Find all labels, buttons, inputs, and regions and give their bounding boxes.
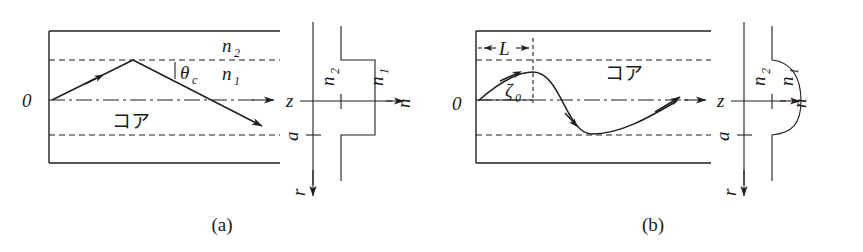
panel-a-profile-n1-subscript: 1	[377, 68, 391, 74]
panel-b-profile-n2-label: n 2	[748, 68, 773, 86]
panel-b-labels: 0 z コア L ζ 0 a n r n 2 n 1	[452, 38, 810, 196]
panel-a-profile-n2-subscript: 2	[328, 68, 342, 74]
panel-a-profile-n2-label: n 2	[317, 68, 342, 86]
panel-a-step-index-profile-curve	[341, 26, 375, 181]
panel-b-profile-n2-letter: n	[748, 77, 769, 87]
panel-a-cladding-index-subscript: 2	[234, 46, 240, 60]
panel-a-core-index-label: n 1	[222, 63, 240, 88]
figure-canvas: 0 z コア n 2 n 1 θ c a n r n 2 n 1	[0, 0, 863, 252]
panel-a-profile-n1-letter: n	[366, 77, 387, 87]
panel-b-axis-n-label: n	[789, 99, 810, 109]
panel-a-profile-n2-letter: n	[317, 77, 338, 87]
panel-a-axis-r-label: r	[288, 188, 309, 196]
panel-a-theta-subscript: c	[192, 73, 198, 87]
panel-a-critical-angle-label: θ c	[180, 62, 198, 87]
panel-a-theta-letter: θ	[180, 62, 189, 83]
panel-b-period-label: L	[498, 38, 510, 59]
panel-a-labels: 0 z コア n 2 n 1 θ c a n r n 2 n 1	[22, 35, 414, 196]
panel-a-core-index-letter: n	[222, 63, 232, 84]
panel-b-ray-diagram	[476, 22, 801, 196]
panel-a-ray-direction-arrow-1	[85, 77, 100, 85]
panel-b-profile-n2-subscript: 2	[759, 68, 773, 74]
panel-b-launch-angle-label: ζ 0	[505, 80, 521, 105]
panel-a-profile-n1-label: n 1	[366, 68, 391, 86]
panel-b-caption: (b)	[642, 214, 664, 236]
panel-b-profile-n1-letter: n	[776, 77, 797, 87]
panel-b-profile-n1-label: n 1	[776, 68, 801, 86]
panel-a-ray-segment-down	[133, 60, 262, 126]
panel-a-axis-z-label: z	[285, 90, 294, 111]
panel-a-core-label: コア	[112, 110, 150, 132]
panel-a-cladding-index-letter: n	[222, 35, 232, 56]
panel-a-axis-n-label: n	[393, 99, 414, 109]
panel-b-zeta-letter: ζ	[505, 80, 514, 101]
panel-b-origin-label: 0	[452, 93, 462, 114]
figure-optical-fiber-ray-paths: 0 z コア n 2 n 1 θ c a n r n 2 n 1	[0, 0, 863, 252]
panel-b-profile-n1-subscript: 1	[787, 68, 801, 74]
panel-a-cladding-index-label: n 2	[222, 35, 240, 60]
panel-b-ray-exit-arrow	[655, 97, 680, 112]
panel-b-axis-z-label: z	[716, 90, 725, 111]
panel-b-axis-r-label: r	[719, 188, 740, 196]
panel-b-zeta-subscript: 0	[515, 91, 521, 105]
panel-a-caption: (a)	[211, 214, 232, 236]
panel-a-origin-label: 0	[22, 90, 32, 111]
panel-b-core-label: コア	[605, 62, 643, 84]
panel-a-core-index-subscript: 1	[234, 74, 240, 88]
panel-b-radius-label: a	[712, 132, 733, 142]
panel-a-radius-label: a	[281, 132, 302, 142]
